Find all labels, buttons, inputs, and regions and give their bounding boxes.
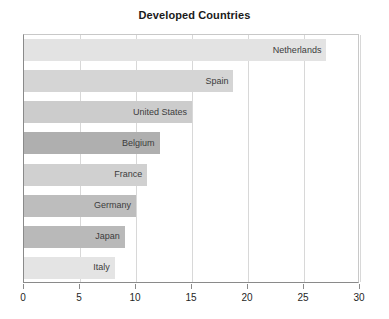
x-tick-label: 30 <box>353 292 364 303</box>
bar[interactable]: Germany <box>24 195 136 217</box>
bar-label: Spain <box>205 77 233 86</box>
bar-band: Spain <box>24 66 358 97</box>
bar-label: Germany <box>94 201 136 210</box>
plot-area: NetherlandsSpainUnited StatesBelgiumFran… <box>23 34 359 283</box>
bar-label: Belgium <box>122 139 160 148</box>
bars-group: NetherlandsSpainUnited StatesBelgiumFran… <box>24 35 358 282</box>
x-tick-mark <box>79 284 80 289</box>
bar-band: Germany <box>24 191 358 222</box>
bar-band: France <box>24 160 358 191</box>
x-tick-label: 25 <box>297 292 308 303</box>
x-tick-mark <box>23 284 24 289</box>
x-tick-mark <box>359 284 360 289</box>
bar-label: Japan <box>95 232 125 241</box>
bar-band: United States <box>24 97 358 128</box>
bar[interactable]: Japan <box>24 226 125 248</box>
x-tick-mark <box>247 284 248 289</box>
gridline <box>360 35 361 282</box>
x-tick-mark <box>303 284 304 289</box>
chart-title: Developed Countries <box>0 9 389 21</box>
bar[interactable]: Netherlands <box>24 39 326 61</box>
bar-label: France <box>114 170 147 179</box>
bar-label: United States <box>133 108 192 117</box>
bar[interactable]: United States <box>24 101 192 123</box>
bar-band: Netherlands <box>24 35 358 66</box>
bar-label: Italy <box>93 263 115 272</box>
bar[interactable]: Belgium <box>24 132 160 154</box>
bar-band: Belgium <box>24 128 358 159</box>
bar[interactable]: France <box>24 164 147 186</box>
bar-label: Netherlands <box>273 46 327 55</box>
x-tick-label: 10 <box>129 292 140 303</box>
x-tick-label: 15 <box>185 292 196 303</box>
bar-band: Japan <box>24 222 358 253</box>
bar-band: Italy <box>24 253 358 284</box>
x-tick-mark <box>135 284 136 289</box>
x-tick-label: 20 <box>241 292 252 303</box>
bar[interactable]: Italy <box>24 257 115 279</box>
x-tick-label: 5 <box>76 292 82 303</box>
bar-chart: Developed Countries NetherlandsSpainUnit… <box>0 0 389 319</box>
x-tick-mark <box>191 284 192 289</box>
x-tick-label: 0 <box>20 292 26 303</box>
bar[interactable]: Spain <box>24 70 233 92</box>
